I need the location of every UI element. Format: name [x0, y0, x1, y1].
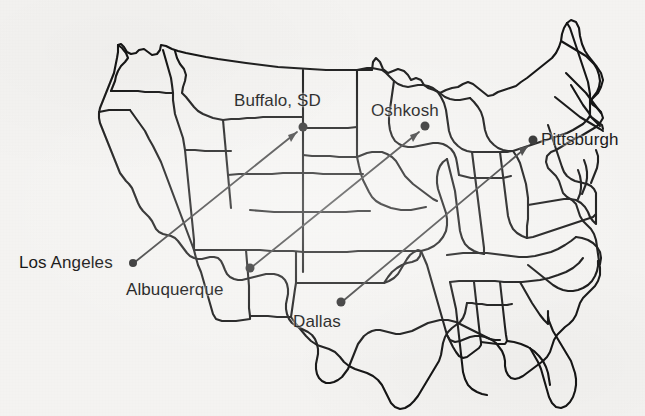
us-route-map: Los Angeles Albuquerque Dallas Buffalo, …	[0, 0, 645, 416]
city-dot-oshkosh	[421, 122, 430, 131]
city-label-pittsburgh: Pittsburgh	[541, 131, 619, 148]
route-abq-to-oshkosh	[252, 132, 419, 267]
city-dot-albuquerque	[246, 264, 255, 273]
city-label-los-angeles: Los Angeles	[19, 254, 113, 271]
city-dot-dallas	[337, 298, 346, 307]
route-dallas-to-pittsburgh	[343, 146, 528, 301]
city-dot-buffalo-sd	[299, 123, 308, 132]
city-dot-los-angeles	[129, 259, 137, 267]
route-arrows	[135, 132, 528, 301]
state-outlines	[99, 20, 603, 409]
city-label-dallas: Dallas	[293, 313, 341, 330]
city-label-buffalo-sd: Buffalo, SD	[234, 92, 321, 109]
city-label-oshkosh: Oshkosh	[371, 102, 439, 119]
city-label-albuquerque: Albuquerque	[126, 281, 224, 298]
city-dot-pittsburgh	[529, 136, 538, 145]
map-canvas	[0, 0, 645, 416]
